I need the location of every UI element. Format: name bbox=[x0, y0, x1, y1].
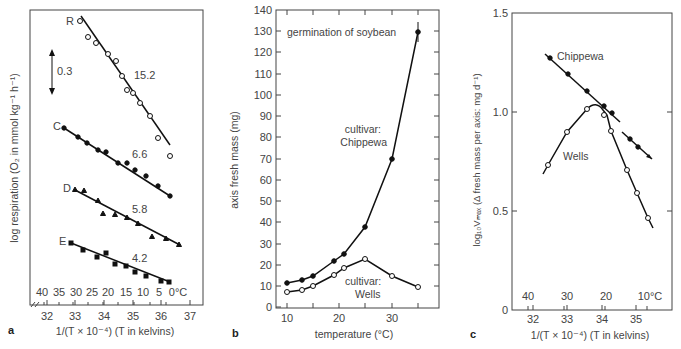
panel-a-xlabel: 1/(T × 10⁻⁴) (T in kelvins) bbox=[56, 325, 174, 337]
svg-text:90: 90 bbox=[260, 110, 272, 122]
panel-a-xtick: 32 bbox=[41, 310, 53, 322]
series-e-slope: 4.2 bbox=[132, 252, 147, 264]
series-e-label: E bbox=[59, 235, 66, 247]
svg-text:0: 0 bbox=[266, 301, 272, 313]
chippewa-label: Chippewa bbox=[557, 50, 604, 62]
panel-c-xtick: 33 bbox=[561, 313, 573, 325]
svg-text:0: 0 bbox=[502, 304, 508, 316]
panel-c-temp-tick: 10°C bbox=[638, 290, 663, 302]
svg-text:50: 50 bbox=[260, 195, 272, 207]
panel-b-xtick: 30 bbox=[386, 312, 398, 324]
wells-label-line2: Wells bbox=[355, 288, 380, 300]
svg-text:1.0: 1.0 bbox=[493, 106, 508, 118]
panel-c-xtick: 35 bbox=[630, 313, 642, 325]
panel-c: 0 0.5 1.0 1.5 32 33 34 35 40 30 20 10°C … bbox=[470, 7, 672, 341]
series-e-line bbox=[71, 243, 170, 282]
panel-a-temp-tick: 30 bbox=[70, 286, 82, 298]
svg-text:70: 70 bbox=[260, 153, 272, 165]
panel-a: 32 33 34 35 36 37 40 35 30 25 20 15 10 5… bbox=[8, 10, 203, 337]
figure-canvas: 32 33 34 35 36 37 40 35 30 25 20 15 10 5… bbox=[0, 0, 681, 349]
svg-text:130: 130 bbox=[254, 25, 272, 37]
panel-c-letter: c bbox=[470, 328, 476, 340]
series-d-points bbox=[73, 187, 182, 247]
wells-points bbox=[546, 107, 651, 221]
panel-b-yticks bbox=[276, 10, 439, 308]
series-d-label: D bbox=[63, 182, 71, 194]
svg-text:110: 110 bbox=[254, 68, 272, 80]
panel-a-xtick: 36 bbox=[155, 310, 167, 322]
svg-text:140: 140 bbox=[254, 4, 272, 16]
wells-curve bbox=[543, 105, 653, 228]
panel-a-temp-tick: 5 bbox=[156, 286, 162, 298]
chippewa-line-1 bbox=[545, 54, 620, 122]
chippewa-points bbox=[285, 30, 421, 286]
chippewa-label-line1: cultivar: bbox=[345, 123, 381, 135]
chippewa-line bbox=[287, 32, 418, 283]
panel-a-xtick: 37 bbox=[184, 310, 196, 322]
panel-a-letter: a bbox=[8, 324, 15, 336]
panel-b-frame bbox=[276, 10, 439, 308]
series-d-slope: 5.8 bbox=[132, 203, 147, 215]
panel-c-temp-tick: 40 bbox=[522, 290, 534, 302]
chippewa-label-line2: Chippewa bbox=[340, 136, 387, 148]
panel-a-temp-tick: 0°C bbox=[169, 286, 188, 298]
panel-b-title: germination of soybean bbox=[287, 26, 396, 38]
wells-label-line1: cultivar: bbox=[345, 275, 381, 287]
svg-text:100: 100 bbox=[254, 89, 272, 101]
series-c-label: C bbox=[53, 120, 61, 132]
panel-a-temp-tick: 15 bbox=[120, 286, 132, 298]
panel-b-xlabel: temperature (°C) bbox=[315, 328, 393, 340]
panel-a-temp-tick: 35 bbox=[53, 286, 65, 298]
panel-b-ylabel: axis fresh mass (mg) bbox=[228, 111, 240, 208]
series-c-slope: 6.6 bbox=[132, 148, 147, 160]
scale-bar-label: 0.3 bbox=[57, 65, 72, 77]
panel-b-xtick: 20 bbox=[333, 312, 345, 324]
panel-c-xtick: 34 bbox=[596, 313, 608, 325]
svg-text:40: 40 bbox=[260, 216, 272, 228]
panel-c-temp-tick: 30 bbox=[561, 290, 573, 302]
panel-a-temp-tick: 40 bbox=[36, 286, 48, 298]
panel-c-temp-tick: 20 bbox=[600, 290, 612, 302]
panel-a-temp-tick: 25 bbox=[86, 286, 98, 298]
panel-c-xlabel: 1/(T × 10⁻⁴) (T in kelvins) bbox=[531, 329, 649, 341]
panel-a-xtick: 35 bbox=[127, 310, 139, 322]
series-r-line bbox=[81, 16, 170, 145]
panel-a-xtick: 34 bbox=[98, 310, 110, 322]
svg-text:20: 20 bbox=[260, 259, 272, 271]
svg-text:10: 10 bbox=[260, 280, 272, 292]
panel-c-xtick: 32 bbox=[527, 313, 539, 325]
svg-text:0.5: 0.5 bbox=[493, 205, 508, 217]
svg-text:30: 30 bbox=[260, 238, 272, 250]
series-r-label: R bbox=[66, 15, 74, 27]
series-r-points bbox=[78, 19, 173, 159]
panel-a-temp-tick: 20 bbox=[102, 286, 114, 298]
panel-a-ylabel: log respiration (O₂ in mmol kg⁻¹ h⁻¹) bbox=[8, 73, 20, 243]
series-r-slope: 15.2 bbox=[134, 69, 155, 81]
wells-label: Wells bbox=[563, 150, 588, 162]
panel-c-ylabel: log₁₀Vₘₐₓ (Δ fresh mass per axis: mg d⁻¹… bbox=[471, 73, 482, 246]
svg-text:120: 120 bbox=[254, 46, 272, 58]
panel-a-temp-tick: 10 bbox=[137, 286, 149, 298]
svg-text:60: 60 bbox=[260, 174, 272, 186]
panel-c-ytick-labels: 0 0.5 1.0 1.5 bbox=[493, 7, 508, 316]
panel-c-ticks bbox=[512, 112, 672, 310]
panel-a-xtick: 33 bbox=[69, 310, 81, 322]
panel-b-letter: b bbox=[232, 327, 239, 339]
svg-text:80: 80 bbox=[260, 131, 272, 143]
panel-b-xtick: 10 bbox=[281, 312, 293, 324]
panel-b: 0 10 20 30 40 50 60 70 80 90 100 110 120… bbox=[228, 4, 439, 340]
svg-text:1.5: 1.5 bbox=[493, 7, 508, 19]
panel-b-ytick-labels: 0 10 20 30 40 50 60 70 80 90 100 110 120… bbox=[254, 4, 272, 313]
panel-a-xticks bbox=[44, 300, 190, 305]
